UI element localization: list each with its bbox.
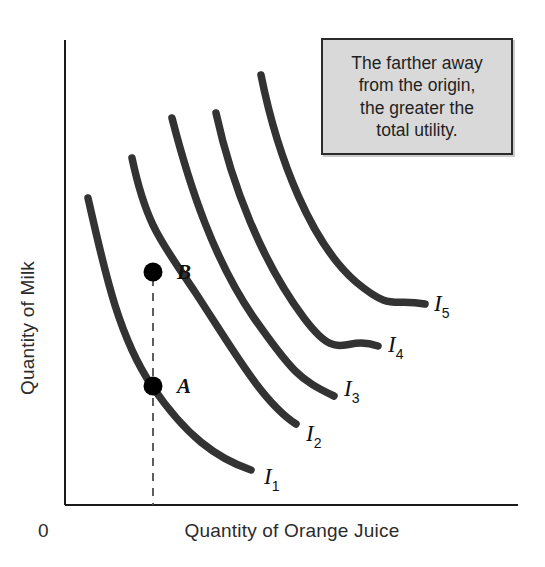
callout-box: The farther away from the origin, the gr… <box>321 38 513 155</box>
curve-label-i4: I4 <box>387 332 404 362</box>
y-axis-title: Quantity of Milk <box>17 261 38 395</box>
point-marker-a <box>144 377 163 396</box>
origin-label: 0 <box>38 520 49 541</box>
point-marker-b <box>144 263 163 282</box>
indifference-curve-i3 <box>172 118 334 396</box>
point-label-b: B <box>176 260 191 284</box>
callout-text: The farther away from the origin, the gr… <box>343 52 490 141</box>
curve-label-i1: I1 <box>263 464 280 494</box>
curve-label-i2: I2 <box>305 421 322 451</box>
figure-canvas: B A I1 I2 I3 I4 I5 Quantity of Milk Quan… <box>0 0 545 567</box>
point-label-a: A <box>175 374 191 398</box>
curve-label-i3: I3 <box>343 376 360 406</box>
x-axis-title: Quantity of Orange Juice <box>185 520 400 541</box>
curve-label-i5: I5 <box>433 291 450 321</box>
